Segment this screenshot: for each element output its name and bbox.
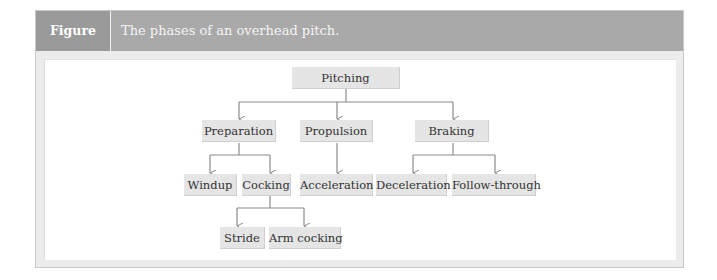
node-cocking: Cocking xyxy=(242,174,291,196)
node-pitching: Pitching xyxy=(292,67,400,89)
node-preparation: Preparation xyxy=(202,120,276,142)
node-deceleration: Deceleration xyxy=(376,174,447,196)
node-braking: Braking xyxy=(415,120,489,142)
node-acceleration: Acceleration xyxy=(300,174,373,196)
node-follow-through: Follow-through xyxy=(452,174,536,196)
node-arm-cocking: Arm cocking xyxy=(269,227,341,249)
node-windup: Windup xyxy=(184,174,237,196)
node-stride: Stride xyxy=(220,227,265,249)
node-propulsion: Propulsion xyxy=(300,120,373,142)
